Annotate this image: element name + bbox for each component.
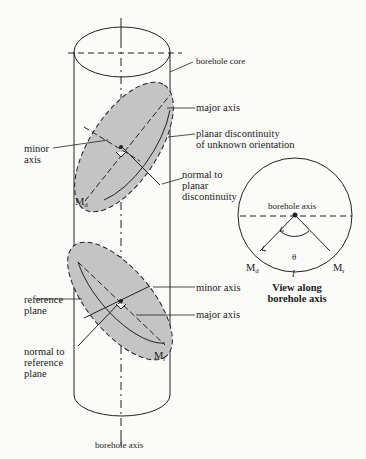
label-major-axis-lower: major axis [196,309,240,320]
label-Mr-lower: Mr [154,350,166,365]
label-normal-ref-l3: plane [24,368,47,379]
inset-Mr: Mr [333,262,345,277]
borehole-diagram [0,0,366,459]
inset-arc-label: l [292,268,295,279]
label-minor-axis-lower: minor axis [196,282,241,293]
label-minor-axis-l1: minor [24,143,49,154]
label-normal-planar-l2: planar [182,180,208,191]
inset-Md: Md [246,262,259,277]
label-reference-plane-l1: reference [24,294,63,305]
label-borehole-core: borehole core [196,56,245,67]
label-Md-upper: Md [75,196,88,211]
label-planar-line1: planar discontinuity [196,128,280,139]
label-normal-ref-l1: normal to [24,346,65,357]
inset-theta: θ [292,252,296,263]
inset-caption-l2: borehole axis [257,293,337,304]
label-minor-axis-l2: axis [24,154,41,165]
label-planar-line2: of unknown orientation [196,139,295,150]
label-reference-plane-l2: plane [24,305,47,316]
inset-label-borehole-axis: borehole axis [268,201,316,212]
label-normal-planar-l3: discontinuity [182,191,237,202]
label-major-axis-upper: major axis [196,102,240,113]
label-borehole-axis-bottom: borehole axis [95,440,143,451]
label-normal-planar-l1: normal to [182,169,223,180]
label-normal-ref-l2: reference [24,357,63,368]
inset-caption-l1: View along [262,282,332,293]
